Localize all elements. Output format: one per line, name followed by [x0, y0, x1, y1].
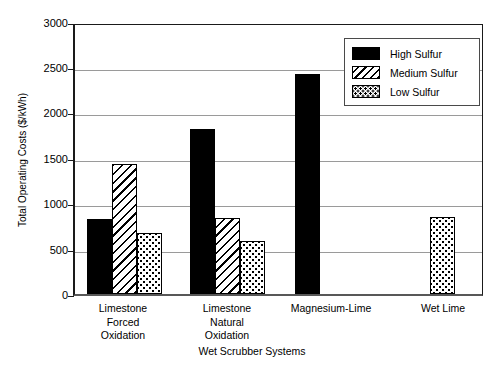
legend-swatch-dots-icon: [352, 85, 380, 98]
legend-item-medium-sulfur: Medium Sulfur: [352, 63, 473, 82]
y-axis-tick-labels: 3000 2500 2000 1500 1000 500 0: [30, 0, 68, 373]
legend-swatch-solid-icon: [352, 47, 380, 60]
gridline: [75, 161, 482, 162]
y-tick-label: 1500: [34, 154, 68, 165]
legend-label: High Sulfur: [390, 48, 442, 60]
y-tick-label: 2000: [34, 108, 68, 119]
bar-low-sulfur-wet-lime: [430, 217, 455, 294]
x-axis-category-label-magnesium-lime: Magnesium-Lime: [271, 302, 391, 316]
bar-high-sulfur-limestone-forced-oxidation: [87, 219, 112, 294]
x-axis-title: Wet Scrubber Systems: [0, 345, 504, 358]
bar-low-sulfur-limestone-forced-oxidation: [137, 233, 162, 294]
y-tick-label: 500: [34, 245, 68, 256]
bar-medium-sulfur-limestone-forced-oxidation: [112, 164, 137, 294]
bar-high-sulfur-limestone-natural-oxidation: [190, 129, 215, 294]
legend-label: Medium Sulfur: [390, 67, 458, 79]
legend-item-high-sulfur: High Sulfur: [352, 44, 473, 63]
y-tick-label: 0: [34, 290, 68, 301]
y-tick-label: 3000: [34, 18, 68, 29]
y-tick-mark: [68, 296, 74, 297]
x-axis-category-label-limestone-forced-oxidation: Limestone Forced Oxidation: [73, 302, 173, 343]
legend-label: Low Sulfur: [390, 86, 440, 98]
bar-high-sulfur-magnesium-lime: [295, 74, 320, 294]
y-tick-label: 1000: [34, 199, 68, 210]
bar-medium-sulfur-limestone-natural-oxidation: [215, 218, 240, 294]
legend-item-low-sulfur: Low Sulfur: [352, 82, 473, 101]
y-tick-label: 2500: [34, 63, 68, 74]
x-axis-category-label-limestone-natural-oxidation: Limestone Natural Oxidation: [177, 302, 277, 343]
x-axis-category-label-wet-lime: Wet Lime: [398, 302, 488, 316]
legend-swatch-hatch-icon: [352, 66, 380, 79]
legend: High Sulfur Medium Sulfur Low Sulfur: [344, 38, 480, 106]
gridline: [75, 115, 482, 116]
bar-low-sulfur-limestone-natural-oxidation: [240, 241, 265, 294]
bar-chart-figure: Total Operating Costs ($/kWh) 3000 2500 …: [0, 0, 504, 373]
